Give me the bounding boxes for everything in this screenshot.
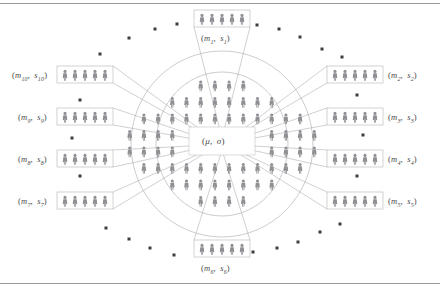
sample-box-s8: [57, 150, 113, 167]
sample-box-s10: [57, 66, 113, 83]
population-person-icon: [241, 179, 246, 190]
scatter-dot: [362, 134, 365, 137]
population-person-icon: [184, 179, 189, 190]
scatter-dot: [173, 254, 176, 257]
population-person-icon: [170, 130, 175, 141]
sample-label-s10: (m10, s10): [12, 70, 47, 82]
sample-label-s1: (m1, s1): [201, 33, 230, 45]
scatter-dot: [356, 94, 359, 97]
scatter-dot: [105, 227, 108, 230]
scatter-dot: [339, 223, 342, 226]
population-person-icon: [213, 97, 218, 108]
population-person-icon: [198, 80, 203, 91]
scatter-dot: [79, 175, 82, 178]
sample-box-s4: [327, 150, 383, 167]
population-person-icon: [184, 97, 189, 108]
population-person-icon: [198, 196, 203, 207]
sample-label-s5: (m5, s5): [388, 196, 417, 208]
sample-label-s9: (m9, s9): [18, 112, 47, 124]
population-person-icon: [298, 163, 303, 174]
population-person-icon: [269, 146, 274, 157]
population-person-icon: [142, 163, 147, 174]
population-person-icon: [170, 179, 175, 190]
population-person-icon: [170, 113, 175, 124]
scatter-dot: [256, 24, 259, 27]
population-person-icon: [213, 196, 218, 207]
scatter-dot: [128, 238, 131, 241]
population-person-icon: [227, 80, 232, 91]
population-person-icon: [184, 113, 189, 124]
scatter-dot: [319, 231, 322, 234]
population-person-icon: [170, 146, 175, 157]
figure-container: (m1, s1)(m2, s2)(m3, s3)(m4, s4)(m5, s5)…: [0, 0, 440, 291]
scatter-dot: [297, 241, 300, 244]
population-person-icon: [198, 97, 203, 108]
population-person-icon: [298, 130, 303, 141]
sample-box-s5: [327, 192, 383, 209]
sample-label-s3: (m3, s3): [388, 112, 417, 124]
sample-box-s2: [327, 66, 383, 83]
population-person-icon: [142, 130, 147, 141]
population-person-icon: [269, 113, 274, 124]
population-person-icon: [241, 97, 246, 108]
population-person-icon: [269, 163, 274, 174]
scatter-dot: [71, 137, 74, 140]
scatter-dot: [176, 23, 179, 26]
population-person-icon: [269, 179, 274, 190]
population-person-icon: [198, 179, 203, 190]
sample-label-s2: (m2, s2): [388, 70, 417, 82]
scatter-dot: [154, 28, 157, 31]
fan-line: [222, 150, 250, 240]
scatter-dot: [356, 175, 359, 178]
scatter-dot: [99, 53, 102, 56]
sample-label-s6: (m6, s6): [201, 263, 230, 275]
population-person-icon: [184, 163, 189, 174]
population-person-icon: [227, 196, 232, 207]
scatter-dot: [276, 247, 279, 250]
center-parameter-label: (μ, σ): [202, 136, 225, 146]
population-person-icon: [227, 179, 232, 190]
scatter-dot: [278, 28, 281, 31]
scatter-dot: [128, 37, 131, 40]
population-person-icon: [241, 80, 246, 91]
population-person-icon: [241, 196, 246, 207]
sample-box-s9: [57, 108, 113, 125]
fan-line: [194, 150, 222, 240]
population-person-icon: [255, 97, 260, 108]
population-person-icon: [241, 113, 246, 124]
sample-box-s1: [194, 10, 250, 27]
population-person-icon: [156, 130, 161, 141]
scatter-dot: [79, 99, 82, 102]
population-person-icon: [198, 163, 203, 174]
sample-label-s8: (m8, s8): [18, 154, 47, 166]
scatter-dot: [299, 36, 302, 39]
scatter-dot: [252, 251, 255, 254]
population-person-icon: [255, 179, 260, 190]
scatter-dot: [149, 247, 152, 250]
population-person-icon: [213, 179, 218, 190]
population-person-icon: [198, 113, 203, 124]
sample-label-s7: (m7, s7): [18, 196, 47, 208]
population-person-icon: [298, 146, 303, 157]
sample-box-s3: [327, 108, 383, 125]
population-person-icon: [213, 80, 218, 91]
scatter-dot: [341, 56, 344, 59]
population-person-icon: [298, 113, 303, 124]
scatter-dot: [321, 48, 324, 51]
population-person-icon: [241, 163, 246, 174]
population-person-icon: [227, 97, 232, 108]
sample-label-s4: (m4, s4): [388, 154, 417, 166]
sample-box-s7: [57, 192, 113, 209]
population-person-icon: [142, 113, 147, 124]
sample-box-s6: [194, 240, 250, 257]
population-person-icon: [269, 130, 274, 141]
population-person-icon: [284, 130, 289, 141]
